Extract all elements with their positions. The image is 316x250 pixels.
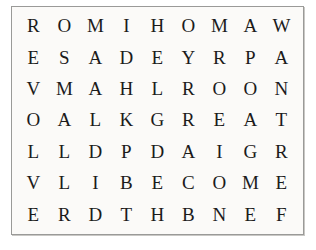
- letter-cell[interactable]: D: [111, 41, 142, 72]
- letter-cell[interactable]: O: [235, 73, 266, 104]
- letter-cell[interactable]: F: [266, 199, 297, 230]
- letter-cell[interactable]: L: [80, 104, 111, 135]
- letter-cell[interactable]: A: [266, 41, 297, 72]
- letter-cell[interactable]: H: [142, 10, 173, 41]
- letter-cell[interactable]: O: [173, 10, 204, 41]
- letter-cell[interactable]: T: [111, 199, 142, 230]
- letter-cell[interactable]: B: [111, 167, 142, 198]
- letter-cell[interactable]: L: [18, 136, 49, 167]
- letter-cell[interactable]: N: [204, 199, 235, 230]
- letter-cell[interactable]: M: [49, 73, 80, 104]
- letter-cell[interactable]: O: [204, 167, 235, 198]
- letter-cell[interactable]: K: [111, 104, 142, 135]
- letter-cell[interactable]: R: [173, 73, 204, 104]
- letter-cell[interactable]: V: [18, 73, 49, 104]
- grid-panel: ROMIHOMAWESADEYRPAVMAHLROONOALKGREATLLDP…: [11, 6, 304, 235]
- letter-cell[interactable]: A: [80, 73, 111, 104]
- letter-cell[interactable]: R: [266, 136, 297, 167]
- letter-cell[interactable]: I: [80, 167, 111, 198]
- letter-cell[interactable]: H: [142, 199, 173, 230]
- letter-cell[interactable]: T: [266, 104, 297, 135]
- letter-cell[interactable]: L: [142, 73, 173, 104]
- letter-cell[interactable]: E: [142, 41, 173, 72]
- letter-cell[interactable]: D: [142, 136, 173, 167]
- letter-cell[interactable]: D: [80, 136, 111, 167]
- letter-cell[interactable]: E: [18, 41, 49, 72]
- letter-cell[interactable]: L: [49, 136, 80, 167]
- letter-cell[interactable]: H: [111, 73, 142, 104]
- letter-cell[interactable]: A: [235, 10, 266, 41]
- letter-cell[interactable]: A: [235, 104, 266, 135]
- letter-cell[interactable]: R: [49, 199, 80, 230]
- letter-cell[interactable]: O: [204, 73, 235, 104]
- letter-cell[interactable]: Y: [173, 41, 204, 72]
- letter-cell[interactable]: A: [49, 104, 80, 135]
- letter-cell[interactable]: W: [266, 10, 297, 41]
- letter-cell[interactable]: C: [173, 167, 204, 198]
- letter-cell[interactable]: A: [80, 41, 111, 72]
- letter-cell[interactable]: R: [18, 10, 49, 41]
- letter-cell[interactable]: G: [235, 136, 266, 167]
- letter-cell[interactable]: S: [49, 41, 80, 72]
- letter-cell[interactable]: E: [18, 199, 49, 230]
- letter-grid: ROMIHOMAWESADEYRPAVMAHLROONOALKGREATLLDP…: [12, 7, 303, 234]
- letter-cell[interactable]: D: [80, 199, 111, 230]
- letter-cell[interactable]: M: [235, 167, 266, 198]
- letter-cell[interactable]: R: [204, 41, 235, 72]
- letter-cell[interactable]: I: [111, 10, 142, 41]
- letter-cell[interactable]: G: [142, 104, 173, 135]
- letter-cell[interactable]: E: [235, 199, 266, 230]
- letter-cell[interactable]: P: [235, 41, 266, 72]
- letter-cell[interactable]: P: [111, 136, 142, 167]
- letter-cell[interactable]: N: [266, 73, 297, 104]
- letter-cell[interactable]: E: [266, 167, 297, 198]
- word-search-puzzle: ROMIHOMAWESADEYRPAVMAHLROONOALKGREATLLDP…: [0, 0, 316, 250]
- letter-cell[interactable]: O: [49, 10, 80, 41]
- letter-cell[interactable]: M: [204, 10, 235, 41]
- letter-cell[interactable]: E: [204, 104, 235, 135]
- letter-cell[interactable]: I: [204, 136, 235, 167]
- letter-cell[interactable]: B: [173, 199, 204, 230]
- letter-cell[interactable]: O: [18, 104, 49, 135]
- letter-cell[interactable]: R: [173, 104, 204, 135]
- letter-cell[interactable]: E: [142, 167, 173, 198]
- letter-cell[interactable]: V: [18, 167, 49, 198]
- letter-cell[interactable]: M: [80, 10, 111, 41]
- letter-cell[interactable]: L: [49, 167, 80, 198]
- letter-cell[interactable]: A: [173, 136, 204, 167]
